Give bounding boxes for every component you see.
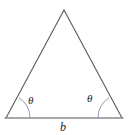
base-length-label: b bbox=[60, 121, 66, 133]
triangle-right-side bbox=[64, 10, 122, 118]
angle-label-left: θ bbox=[28, 95, 33, 106]
angle-arc-right-icon bbox=[98, 98, 109, 118]
triangle-diagram-svg bbox=[0, 0, 129, 135]
triangle-left-side bbox=[6, 10, 64, 118]
triangle-figure: θ θ b bbox=[0, 0, 129, 135]
angle-label-right: θ bbox=[87, 93, 92, 104]
